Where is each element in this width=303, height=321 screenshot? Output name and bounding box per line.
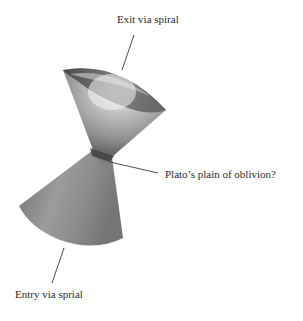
bottom-cone (19, 150, 123, 246)
diagram-canvas: Exit via spiral Plato’s plain of oblivio… (0, 0, 303, 321)
exit-label: Exit via spiral (117, 14, 179, 25)
waist-leader-line (110, 162, 158, 173)
entry-leader-line (52, 248, 64, 283)
exit-leader-line (122, 35, 134, 70)
waist-label: Plato’s plain of oblivion? (165, 169, 276, 180)
entry-label: Entry via sprial (15, 289, 83, 300)
double-cone-illustration (0, 0, 303, 321)
top-cone (63, 68, 166, 157)
